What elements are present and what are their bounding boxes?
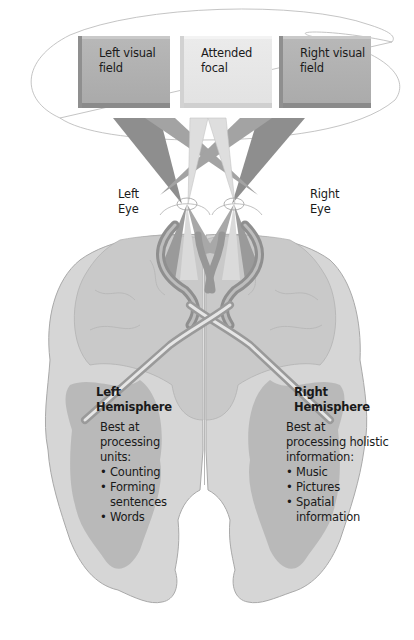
attended-focal-label-line2: focal xyxy=(201,61,271,76)
list-item-continuation-text: information xyxy=(296,510,360,524)
right-hemisphere-desc-line2: processing holistic xyxy=(286,435,389,450)
list-item-continuation: information xyxy=(286,510,389,525)
left-hemisphere-callout: Left Hemisphere Best at processing units… xyxy=(96,385,172,525)
left-visual-field-label-line1: Left visual xyxy=(99,46,169,61)
left-eye-label: Left Eye xyxy=(118,187,139,217)
left-hemisphere-desc-line3: units: xyxy=(100,450,172,465)
right-hemisphere-title-line1: Right xyxy=(294,385,389,400)
left-hemisphere-title-line1: Left xyxy=(96,385,172,400)
list-item-continuation: sentences xyxy=(100,495,172,510)
list-item-continuation-text: sentences xyxy=(110,495,167,509)
right-eye-label: Right Eye xyxy=(310,187,339,217)
visual-pathway-diagram: Left visual field Attended focal Right v… xyxy=(0,0,414,640)
list-item: Pictures xyxy=(286,480,389,495)
left-hemisphere-title-line2: Hemisphere xyxy=(96,400,172,415)
right-hemisphere-callout: Right Hemisphere Best at processing holi… xyxy=(286,385,389,525)
right-hemisphere-desc-line1: Best at xyxy=(286,420,389,435)
right-hemisphere-list: Music Pictures Spatial information xyxy=(286,465,389,525)
attended-focal-box: Attended focal xyxy=(180,36,272,108)
list-item: Spatial xyxy=(286,495,389,510)
left-eye-label-line1: Left xyxy=(118,187,139,202)
left-hemisphere-list: Counting Forming sentences Words xyxy=(100,465,172,525)
list-item: Music xyxy=(286,465,389,480)
right-hemisphere-desc-line3: information: xyxy=(286,450,389,465)
right-hemisphere-title-line2: Hemisphere xyxy=(294,400,389,415)
list-item: Forming xyxy=(100,480,172,495)
left-eye-label-line2: Eye xyxy=(118,202,139,217)
attended-focal-label-line1: Attended xyxy=(201,46,271,61)
right-eye-label-line2: Eye xyxy=(310,202,339,217)
eyes xyxy=(160,198,262,215)
list-item: Words xyxy=(100,510,172,525)
right-visual-field-label-line1: Right visual xyxy=(300,46,370,61)
left-hemisphere-desc-line1: Best at xyxy=(100,420,172,435)
right-visual-field-label-line2: field xyxy=(300,61,370,76)
right-eye-label-line1: Right xyxy=(310,187,339,202)
left-hemisphere-desc-line2: processing xyxy=(100,435,172,450)
left-visual-field-label-line2: field xyxy=(99,61,169,76)
left-visual-field-box: Left visual field xyxy=(78,36,170,108)
list-item: Counting xyxy=(100,465,172,480)
right-visual-field-box: Right visual field xyxy=(279,36,371,108)
